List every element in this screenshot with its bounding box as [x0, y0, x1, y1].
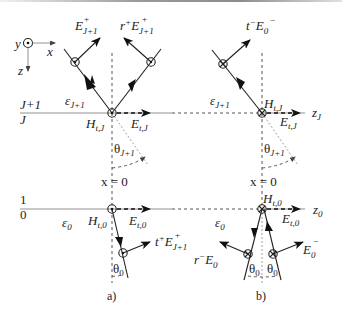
- layered-media-diagram: y x z J+1 J EJ+1 +: [0, 0, 342, 317]
- e-field-label: Et,0: [281, 211, 300, 228]
- y-axis-label: y: [13, 36, 21, 51]
- svg-text:+: +: [142, 14, 147, 24]
- h-field-label: Ht,J: [85, 116, 105, 133]
- angle-label: θJ+1: [264, 141, 285, 158]
- e-field-label: Et,0: [128, 213, 147, 230]
- caption-a: a): [107, 289, 116, 303]
- reflected-wave-label: r+EJ+1: [120, 17, 154, 36]
- z-axis-label: zJ: [311, 105, 322, 122]
- h-field-label: Ht,0: [262, 191, 282, 208]
- medium-label-eps-0: ε0: [215, 215, 225, 232]
- x-axis-label: x: [46, 44, 53, 59]
- h-field-label: Ht,J: [263, 96, 283, 113]
- e-field-label: Et,J: [130, 116, 149, 133]
- reflected-wave-label: r−E0: [194, 251, 218, 270]
- svg-text:−: −: [270, 15, 275, 25]
- normal-label-a: x = 0: [101, 174, 128, 189]
- svg-text:0: 0: [20, 207, 27, 222]
- medium-label-eps-j1: εJ+1: [65, 93, 85, 110]
- panel-b-bottom: ε0 Ht,0 Et,0 z0 r−E0 E0 − θ0 θ0 b): [194, 191, 323, 303]
- angle-label-left: θ0: [249, 261, 260, 278]
- e-field-label: Et,J: [279, 114, 298, 131]
- medium-label-eps-0: ε0: [62, 215, 72, 232]
- coordinate-axes-icon: y x z: [13, 36, 55, 78]
- angle-label: θJ+1: [114, 141, 135, 158]
- angle-label: θ0: [113, 261, 124, 278]
- panel-a-bottom: 1 0 ε0 Ht,0 Et,0 t+EJ+1 + θ0 a): [20, 192, 258, 303]
- layer-label-upper: J+1: [20, 97, 41, 112]
- z-axis-label: z0: [312, 202, 323, 219]
- svg-text:−: −: [313, 236, 318, 246]
- svg-text:1: 1: [20, 192, 27, 207]
- normal-label-b: x = 0: [250, 174, 277, 189]
- z-axis-label: z: [17, 63, 23, 78]
- svg-text:+: +: [84, 14, 89, 24]
- transmitted-wave-label: t+EJ+1: [155, 233, 187, 252]
- layer-label-lower: J: [20, 112, 27, 127]
- svg-text:+: +: [175, 230, 180, 240]
- h-field-label: Ht,0: [87, 213, 107, 230]
- caption-b: b): [256, 289, 266, 303]
- medium-label-eps-j1: εJ+1: [210, 93, 230, 110]
- transmitted-wave-label: t−E0: [246, 17, 269, 36]
